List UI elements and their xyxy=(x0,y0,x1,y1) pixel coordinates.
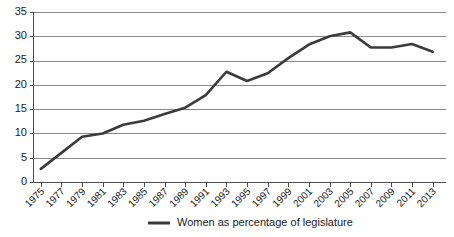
x-axis-tick-label: 2001 xyxy=(291,185,315,209)
y-axis-tick-label: 25 xyxy=(15,53,27,65)
y-axis-tick-label: 10 xyxy=(15,126,27,138)
x-axis-tick-label: 2007 xyxy=(353,185,377,209)
x-axis-tick-label: 2013 xyxy=(415,185,439,209)
gridlines-group xyxy=(34,13,447,159)
x-axis-tick-label: 1991 xyxy=(188,185,212,209)
y-axis-tick-label: 15 xyxy=(15,102,27,114)
series-line-women-percentage xyxy=(41,32,433,168)
chart-container: 05101520253035 1975197719791981198319851… xyxy=(0,0,454,237)
y-axis-tick-label: 5 xyxy=(21,151,27,163)
x-axis-tick-label: 1977 xyxy=(43,185,67,209)
x-axis-tick-label: 2011 xyxy=(394,185,417,208)
x-axis-tick-label: 1995 xyxy=(229,185,253,209)
x-axis-tick-label: 1999 xyxy=(270,185,294,209)
legend-label: Women as percentage of legislature xyxy=(177,216,353,228)
line-chart: 05101520253035 1975197719791981198319851… xyxy=(0,0,454,237)
x-axis-tick-label: 1997 xyxy=(250,185,274,209)
x-axis-labels-group: 1975197719791981198319851987198919911993… xyxy=(23,185,439,209)
y-axis-tick-label: 20 xyxy=(15,78,27,90)
x-axis-tick-label: 1981 xyxy=(85,185,109,209)
y-axis-tick-label: 30 xyxy=(15,29,27,41)
x-axis-tick-label: 2009 xyxy=(373,185,397,209)
x-axis-tick-label: 2003 xyxy=(311,185,335,209)
y-axis-tick-label: 35 xyxy=(15,5,27,17)
y-axis-labels-group: 05101520253035 xyxy=(15,5,27,187)
x-axis-tick-label: 1989 xyxy=(167,185,191,209)
x-axis-tick-label: 1979 xyxy=(64,185,88,209)
x-axis-tick-label: 1983 xyxy=(105,185,129,209)
tickmarks-group xyxy=(30,13,434,187)
x-axis-tick-label: 1985 xyxy=(126,185,150,209)
x-axis-tick-label: 2005 xyxy=(332,185,356,209)
legend: Women as percentage of legislature xyxy=(148,216,353,228)
x-axis-tick-label: 1987 xyxy=(146,185,170,209)
x-axis-tick-label: 1975 xyxy=(23,185,47,209)
x-axis-tick-label: 1993 xyxy=(208,185,232,209)
y-axis-tick-label: 0 xyxy=(21,175,27,187)
